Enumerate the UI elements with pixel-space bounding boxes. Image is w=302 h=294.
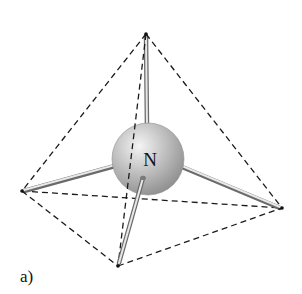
vertex-left — [20, 189, 24, 193]
bond-top — [146, 36, 147, 128]
tetrahedral-molecule-diagram: N a) — [0, 0, 302, 294]
vertex-top — [144, 32, 148, 36]
vertex-bottom — [116, 264, 120, 268]
vertex-right — [280, 206, 284, 210]
edge-bottom-right — [118, 208, 282, 266]
panel-label: a) — [20, 267, 33, 286]
edge-left-bottom — [22, 191, 118, 266]
atom-label-N: N — [143, 149, 157, 170]
bond-left — [24, 165, 115, 191]
